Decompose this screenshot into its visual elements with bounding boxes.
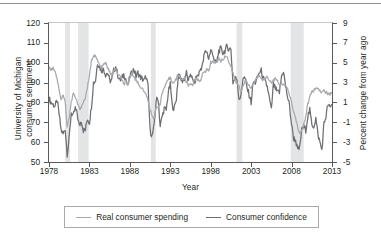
y-axis-right-tickmark: [333, 63, 337, 64]
recession-band: [291, 23, 304, 162]
y-axis-left-tick-label: 60: [0, 137, 40, 147]
y-axis-right-tickmark: [333, 23, 337, 24]
y-axis-right-tickmark: [333, 162, 337, 163]
y-axis-right-tickmark: [333, 43, 337, 44]
legend-label-confidence: Consumer confidence: [226, 212, 307, 222]
y-axis-right-tickmark: [333, 83, 337, 84]
y-axis-left-tick-label: 50: [0, 157, 40, 167]
y-axis-left-tick-label: 90: [0, 77, 40, 87]
y-axis-left-tick-label: 120: [0, 18, 40, 28]
x-axis-tickmark: [332, 163, 333, 167]
legend-line-swatch-spending: [76, 217, 91, 218]
x-axis-title: Year: [48, 182, 333, 192]
x-axis-tick-label: 1988: [107, 166, 153, 176]
x-axis-tick-label: 1998: [188, 166, 234, 176]
y-axis-right-tick-label: 3: [343, 77, 373, 87]
x-axis-tick-label: 1983: [66, 166, 112, 176]
legend-line-swatch-confidence: [206, 217, 221, 218]
plot-svg: [49, 23, 332, 162]
y-axis-right-tickmark: [333, 102, 337, 103]
y-axis-right-tick-label: -1: [343, 117, 373, 127]
plot-area: [48, 22, 333, 163]
y-axis-right-tick-label: 7: [343, 37, 373, 47]
x-axis-tickmark: [292, 163, 293, 167]
y-axis-left-tick-label: 80: [0, 97, 40, 107]
y-axis-right-tick-label: 9: [343, 18, 373, 28]
recession-band: [151, 23, 156, 162]
legend-entry-real-consumer-spending: Real consumer spending: [76, 212, 188, 222]
x-axis-tick-label: 2003: [228, 166, 274, 176]
top-divider-rule: [0, 3, 381, 4]
chart-figure: University of Michigan consumer sentimen…: [0, 0, 381, 234]
legend-label-spending: Real consumer spending: [96, 212, 188, 222]
y-axis-left-tick-label: 110: [0, 37, 40, 47]
x-axis-tickmark: [130, 163, 131, 167]
legend-entry-consumer-confidence: Consumer confidence: [206, 212, 307, 222]
y-axis-left-tick-label: 70: [0, 117, 40, 127]
y-axis-right-tick-label: -3: [343, 137, 373, 147]
y-axis-right-tick-label: 5: [343, 57, 373, 67]
y-axis-right-tickmark: [333, 122, 337, 123]
chart-legend: Real consumer spending Consumer confiden…: [64, 206, 319, 228]
series-line-real-consumer-spending: [49, 55, 332, 134]
x-axis-tick-label: 1993: [147, 166, 193, 176]
x-axis-tickmark: [49, 163, 50, 167]
y-axis-right-tick-label: 1: [343, 97, 373, 107]
x-axis-tick-label: 2013: [309, 166, 355, 176]
y-axis-right-tickmark: [333, 142, 337, 143]
x-axis-tickmark: [89, 163, 90, 167]
series-lines: [49, 44, 332, 157]
y-axis-right-tick-label: -5: [343, 157, 373, 167]
recession-band: [78, 23, 89, 162]
x-axis-tick-label: 2008: [269, 166, 315, 176]
x-axis-tickmark: [211, 163, 212, 167]
y-axis-left-tick-label: 100: [0, 57, 40, 67]
x-axis-tickmark: [170, 163, 171, 167]
x-axis-tickmark: [251, 163, 252, 167]
x-axis-tick-label: 1978: [26, 166, 72, 176]
